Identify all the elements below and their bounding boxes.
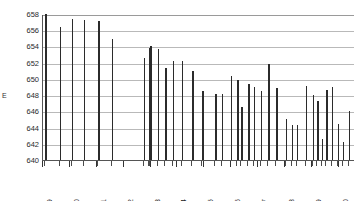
x-tick [59, 161, 60, 166]
bar [317, 101, 319, 160]
y-tick-label: 642 [26, 141, 39, 149]
x-tick [267, 161, 268, 166]
x-tick [331, 161, 332, 166]
y-tick-label: 658 [26, 11, 39, 19]
plot-area [42, 15, 354, 161]
x-tick [247, 161, 248, 166]
y-tick-label: 646 [26, 108, 39, 116]
bar [237, 80, 239, 160]
y-tick-label: 648 [26, 92, 39, 100]
x-tick [71, 161, 72, 166]
x-tick [83, 161, 84, 166]
bar [326, 90, 328, 160]
bar [60, 27, 62, 160]
bar [286, 119, 288, 160]
x-tick-label: 1986 [234, 199, 242, 201]
x-tick-label: 1989 [315, 199, 323, 201]
bar [45, 14, 47, 160]
bar [313, 95, 315, 160]
x-tick-major [176, 161, 177, 167]
x-tick [97, 161, 98, 166]
bar [84, 20, 86, 160]
x-tick-label: 1983 [154, 199, 162, 201]
x-tick-major [123, 161, 124, 167]
y-tick-label: 640 [26, 157, 39, 165]
y-tick-label: 654 [26, 43, 39, 51]
x-tick [221, 161, 222, 166]
bar [215, 94, 217, 161]
bar [165, 68, 167, 160]
bar [349, 111, 351, 160]
y-tick-label: 656 [26, 27, 39, 35]
x-tick-label: 1990 [342, 199, 350, 201]
x-tick-major [311, 161, 312, 167]
x-tick-label: 1988 [288, 199, 296, 201]
bar [231, 76, 233, 160]
bar [261, 91, 263, 160]
y-axis-title: E [2, 92, 7, 99]
x-tick-major [203, 161, 204, 167]
x-tick-major [150, 161, 151, 167]
x-tick [111, 161, 112, 166]
x-tick [164, 161, 165, 166]
x-tick [316, 161, 317, 166]
x-tick [348, 161, 349, 166]
x-tick-label: 1985 [207, 199, 215, 201]
x-tick [291, 161, 292, 166]
bar [241, 107, 243, 160]
bar [248, 84, 250, 160]
x-tick [275, 161, 276, 166]
x-tick-label: 1982 [127, 199, 135, 201]
x-tick [342, 161, 343, 166]
bar [306, 86, 308, 160]
x-tick [201, 161, 202, 166]
bar [158, 49, 160, 160]
x-tick [240, 161, 241, 166]
x-tick [214, 161, 215, 166]
y-tick-label: 650 [26, 76, 39, 84]
bar [182, 61, 184, 160]
x-tick [143, 161, 144, 166]
bar [254, 87, 256, 160]
y-tick-label: 644 [26, 125, 39, 133]
chart-container: E 658656654652650648646644642640 1979198… [0, 0, 362, 201]
x-tick [325, 161, 326, 166]
bar [112, 39, 114, 160]
x-tick [321, 161, 322, 166]
x-tick-major [42, 161, 43, 167]
x-tick [236, 161, 237, 166]
bar [98, 21, 100, 161]
x-tick [172, 161, 173, 166]
x-tick [253, 161, 254, 166]
x-tick-label: 1981 [100, 199, 108, 201]
bar [276, 88, 278, 160]
bar [144, 58, 146, 160]
x-tick-major [96, 161, 97, 167]
bar [297, 125, 299, 160]
x-tick [305, 161, 306, 166]
x-tick-label: 1980 [73, 199, 81, 201]
x-tick-major [230, 161, 231, 167]
x-tick-label: 1979 [46, 199, 54, 201]
bar [338, 124, 340, 160]
x-tick-major [69, 161, 70, 167]
bar [292, 125, 294, 160]
bar [343, 142, 345, 160]
y-axis-tick-labels: 658656654652650648646644642640 [11, 0, 39, 201]
bar [322, 139, 324, 160]
x-tick-label: 1987 [261, 199, 269, 201]
x-tick-major [257, 161, 258, 167]
bar [332, 87, 334, 160]
x-tick [260, 161, 261, 166]
x-tick [157, 161, 158, 166]
x-tick-label: 1984 [180, 199, 188, 201]
x-tick [181, 161, 182, 166]
bar-series [43, 15, 354, 160]
bar [222, 94, 224, 161]
bar [150, 46, 152, 160]
bar [173, 61, 175, 160]
x-axis-tick-labels: 1979198019811982198319841985198619871988… [42, 167, 354, 201]
x-tick [296, 161, 297, 166]
bar [202, 91, 204, 160]
x-tick-major [284, 161, 285, 167]
